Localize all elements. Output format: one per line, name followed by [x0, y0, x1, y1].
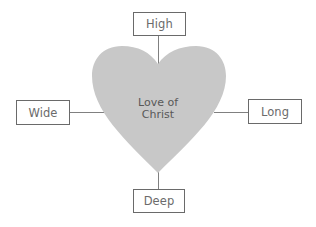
node-wide: Wide: [16, 100, 70, 125]
center-label: Love of Christ: [118, 97, 198, 121]
node-deep-label: Deep: [144, 194, 175, 208]
node-deep: Deep: [133, 189, 185, 213]
node-high-label: High: [146, 17, 173, 31]
love-dimensions-diagram: High Wide Long Deep Love of Christ: [0, 0, 316, 227]
node-long: Long: [248, 99, 302, 124]
node-wide-label: Wide: [28, 106, 57, 120]
center-label-line2: Christ: [118, 109, 198, 121]
node-high: High: [133, 12, 186, 36]
node-long-label: Long: [261, 105, 289, 119]
